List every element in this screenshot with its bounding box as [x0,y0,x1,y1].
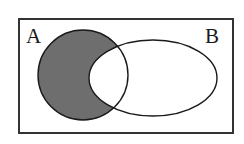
set-b-label: B [205,26,219,47]
venn-diagram-canvas [0,0,244,144]
set-a-label: A [26,26,41,47]
venn-diagram-figure: A B [0,0,244,144]
